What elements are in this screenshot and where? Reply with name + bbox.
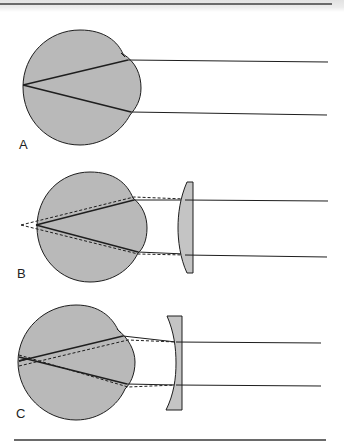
bottom-rule — [14, 439, 326, 441]
panel-label-b: B — [17, 266, 26, 281]
panel-label-c: C — [16, 406, 25, 421]
panel-a — [23, 30, 328, 145]
diverging-ray-upper-c — [123, 336, 176, 342]
incoming-ray-lower-b — [185, 255, 327, 257]
eye-a — [23, 30, 141, 145]
diverging-ray-lower-c — [127, 384, 176, 385]
panel-b — [21, 172, 328, 282]
incoming-ray-upper-c — [176, 342, 321, 343]
concave-lens-c — [166, 316, 182, 410]
panel-c — [18, 305, 321, 420]
convex-lens-b — [178, 182, 193, 273]
incoming-ray-lower-a — [131, 112, 327, 115]
incoming-ray-upper-b — [185, 200, 328, 201]
panel-label-a: A — [19, 137, 28, 152]
eye-b — [37, 172, 147, 282]
eye-optics-diagram — [0, 0, 344, 447]
incoming-ray-lower-c — [176, 385, 321, 386]
incoming-ray-upper-a — [128, 60, 328, 62]
